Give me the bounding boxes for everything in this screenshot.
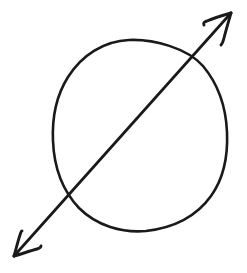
drawing-surface	[0, 0, 247, 273]
sketch-canvas: Hand-drawn circle crossed by a diagonal …	[0, 0, 247, 273]
